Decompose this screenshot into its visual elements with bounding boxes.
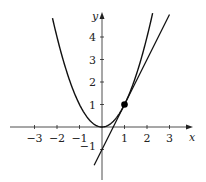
points <box>121 101 128 108</box>
x-axis-arrow-icon <box>186 125 193 130</box>
x-tick-label: 1 <box>121 132 128 145</box>
curves <box>53 13 170 165</box>
parabola-curve <box>53 13 153 127</box>
function-plot: −3−2−1123−11234 x y <box>0 0 206 182</box>
x-tick-label: −2 <box>49 132 65 145</box>
y-axis-label: y <box>91 10 99 23</box>
x-axis-label: x <box>189 131 196 144</box>
y-tick-label: −1 <box>80 140 96 153</box>
y-tick-label: 1 <box>89 99 96 112</box>
plot-canvas: −3−2−1123−11234 x y <box>0 0 206 182</box>
y-tick-label: 2 <box>89 76 96 89</box>
x-tick-label: 2 <box>144 132 151 145</box>
tangent-line <box>94 15 169 166</box>
x-tick-label: −3 <box>26 132 42 145</box>
y-tick-label: 4 <box>89 31 96 44</box>
tangent-point-marker <box>121 101 128 108</box>
y-axis-arrow-icon <box>100 12 105 19</box>
tick-labels: −3−2−1123−11234 <box>26 31 173 153</box>
y-tick-label: 3 <box>89 54 96 67</box>
x-tick-label: 3 <box>166 132 173 145</box>
axes <box>10 12 193 180</box>
